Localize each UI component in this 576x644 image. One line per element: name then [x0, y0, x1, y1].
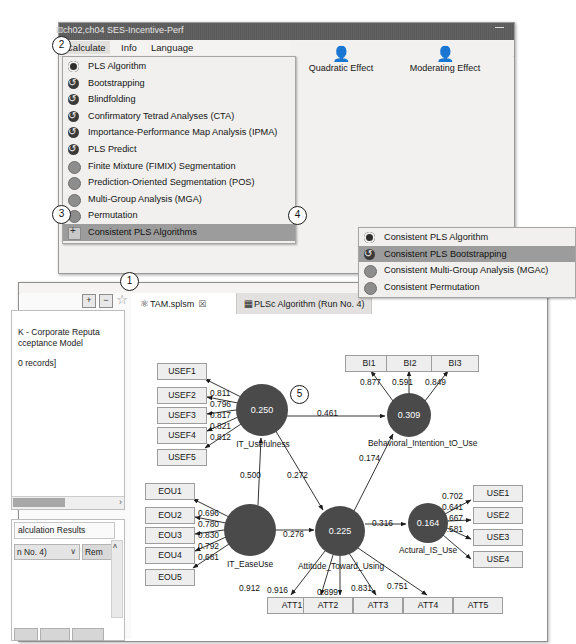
indicator-usef5[interactable]: USEF5: [157, 449, 207, 466]
construct-behavioral-intention[interactable]: 0.309: [387, 393, 431, 437]
indicator-eou4[interactable]: EOU4: [145, 547, 195, 564]
minimize-button[interactable]: [495, 27, 504, 28]
globe-icon: [68, 194, 81, 207]
table-icon: ▦: [243, 293, 254, 314]
menu-item-pls-predict[interactable]: PLS Predict: [63, 141, 295, 158]
construct-attitude[interactable]: 0.225: [315, 506, 365, 556]
project-explorer-toolbar: + − ☆: [79, 294, 128, 308]
results-vertical-scrollbar[interactable]: ʌ: [111, 540, 123, 618]
loading-bi3: 0.849: [425, 377, 446, 387]
indicator-att2[interactable]: ATT2: [303, 597, 353, 614]
menu-language[interactable]: Language: [147, 41, 197, 54]
menu-info[interactable]: Info: [117, 41, 141, 54]
menu-item-consistent-pls-algorithms[interactable]: Consistent PLS Algorithms: [63, 224, 295, 241]
run-select[interactable]: n No. 4) ∨: [14, 544, 80, 560]
project-tree[interactable]: K - Corporate Reputa cceptance Model 0 r…: [11, 310, 125, 510]
submenu-item-consistent-pls-bootstrapping[interactable]: Consistent PLS Bootstrapping: [359, 246, 575, 263]
indicator-att4[interactable]: ATT4: [403, 597, 453, 614]
submenu-item-consistent-mgac[interactable]: Consistent Multi-Group Analysis (MGAc): [359, 262, 575, 279]
calculate-dropdown-menu: PLS Algorithm Bootstrapping Blindfolding…: [62, 56, 296, 244]
menu-item-blindfolding[interactable]: Blindfolding: [63, 91, 295, 108]
construct-label-actual-is-use: Actural_IS_Use: [393, 545, 463, 555]
construct-label-it-usefulness: IT_Usefulness: [227, 439, 299, 449]
tab-calculation-results[interactable]: alculation Results: [14, 522, 115, 539]
indicator-eou1[interactable]: EOU1: [145, 483, 195, 500]
menu-item-pos[interactable]: Prediction-Oriented Segmentation (POS): [63, 174, 295, 191]
indicator-use3[interactable]: USE3: [473, 529, 523, 546]
menu-item-label: Prediction-Oriented Segmentation (POS): [88, 174, 254, 191]
menu-item-mga[interactable]: Multi-Group Analysis (MGA): [63, 191, 295, 208]
remove-button[interactable]: Rem: [82, 544, 112, 560]
scrollbar-thumb[interactable]: [13, 498, 65, 507]
run-select-value: n No. 4): [17, 547, 47, 557]
construct-it-easeuse[interactable]: [224, 504, 276, 556]
menu-item-fimix[interactable]: Finite Mixture (FIMIX) Segmentation: [63, 158, 295, 175]
arrows-icon: [68, 94, 79, 105]
model-file-icon: ⚛: [139, 293, 150, 314]
construct-label-it-easeuse: IT_EaseUse: [219, 559, 281, 569]
indicator-bi2[interactable]: BI2: [386, 355, 434, 372]
indicator-bi3[interactable]: BI3: [431, 355, 479, 372]
indicator-eou5[interactable]: EOU5: [145, 569, 195, 586]
indicator-att3[interactable]: ATT3: [353, 597, 403, 614]
loading-usef2: 0.796: [210, 399, 231, 409]
path-model-canvas[interactable]: USEF1 USEF2 USEF3 USEF4 USEF5 0.811 0.79…: [131, 315, 546, 639]
menu-item-pls-algorithm[interactable]: PLS Algorithm: [63, 58, 295, 75]
indicator-eou2[interactable]: EOU2: [145, 507, 195, 524]
moderating-effect-button[interactable]: 👤 Moderating Effect: [395, 45, 495, 73]
tab-tam-splsm[interactable]: ⚛TAM.splsm☒: [137, 293, 208, 314]
horizontal-scrollbar[interactable]: ›: [12, 496, 124, 509]
menu-item-ipma[interactable]: Importance-Performance Map Analysis (IPM…: [63, 124, 295, 141]
callout-4: 4: [288, 206, 307, 225]
loading-att2: 0.916: [267, 585, 288, 595]
quadratic-effect-label: Quadratic Effect: [309, 63, 373, 73]
indicator-usef4[interactable]: USEF4: [157, 427, 207, 444]
menu-item-label: PLS Algorithm: [88, 58, 146, 75]
calculation-results-panel: alculation Results n No. 4) ∨ Rem ʌ: [11, 519, 125, 641]
indicator-usef2[interactable]: USEF2: [157, 387, 207, 404]
indicator-att5[interactable]: ATT5: [453, 597, 503, 614]
results-cell: [14, 628, 38, 641]
window-titlebar[interactable]: ▧ ch02,ch04 SES-Incentive-Perf: [59, 23, 514, 40]
indicator-use4[interactable]: USE4: [473, 551, 523, 568]
collapse-all-icon[interactable]: −: [99, 294, 113, 308]
favorite-star-icon[interactable]: ☆: [116, 294, 128, 306]
tab-plsc-algorithm[interactable]: ▦PLSc Algorithm (Run No. 4): [236, 293, 372, 314]
loading-use2: 0.641: [442, 502, 463, 512]
loading-eou3: 0.830: [198, 530, 219, 540]
loading-bi1: 0.877: [360, 377, 381, 387]
tab-label: TAM.splsm: [150, 299, 194, 309]
indicator-use2[interactable]: USE2: [473, 507, 523, 524]
close-icon[interactable]: ☒: [198, 294, 206, 315]
indicator-use1[interactable]: USE1: [473, 485, 523, 502]
scroll-right-arrow[interactable]: ›: [119, 497, 122, 507]
arrows-icon: [364, 249, 375, 260]
menu-item-cta[interactable]: Confirmatory Tetrad Analyses (CTA): [63, 108, 295, 125]
results-row: [14, 628, 110, 639]
path-easeuse-to-attitude: 0.272: [287, 470, 308, 480]
submenu-item-label: Consistent PLS Algorithm: [384, 229, 488, 246]
quadratic-effect-button[interactable]: 👤 Quadratic Effect: [291, 45, 391, 73]
project-name-line1: K - Corporate Reputa: [18, 327, 100, 337]
indicator-usef3[interactable]: USEF3: [157, 407, 207, 424]
indicator-usef1[interactable]: USEF1: [157, 363, 207, 380]
indicator-eou3[interactable]: EOU3: [145, 527, 195, 544]
menu-item-permutation[interactable]: Permutation: [63, 207, 295, 224]
globe-icon: [364, 282, 377, 295]
construct-actual-is-use[interactable]: 0.164: [408, 503, 448, 543]
disc-icon: [364, 232, 375, 243]
construct-it-usefulness[interactable]: 0.250: [236, 384, 288, 436]
globe-icon: [68, 177, 81, 190]
menu-item-label: Confirmatory Tetrad Analyses (CTA): [88, 108, 234, 125]
menu-item-label: Finite Mixture (FIMIX) Segmentation: [88, 158, 236, 175]
submenu-item-consistent-pls-algorithm[interactable]: Consistent PLS Algorithm: [359, 229, 575, 246]
loading-eou5: 0.681: [198, 552, 219, 562]
results-cell: [72, 628, 104, 641]
menu-item-bootstrapping[interactable]: Bootstrapping: [63, 75, 295, 92]
scroll-up-arrow[interactable]: ʌ: [113, 541, 117, 550]
tab-label: PLSc Algorithm (Run No. 4): [254, 299, 365, 309]
expand-all-icon[interactable]: +: [82, 294, 96, 308]
menu-item-label: Blindfolding: [88, 91, 136, 108]
submenu-item-consistent-permutation[interactable]: Consistent Permutation: [359, 279, 575, 296]
loading-eou1: 0.696: [198, 508, 219, 518]
